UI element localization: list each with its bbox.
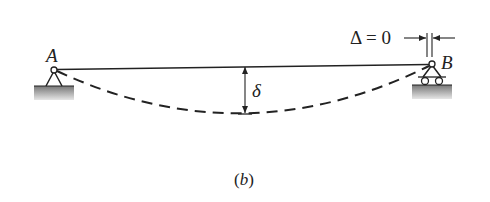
ground-right	[412, 85, 452, 99]
caption-close: )	[248, 170, 254, 189]
roller-wheel-icon	[422, 78, 429, 85]
roller-hinge-icon	[429, 61, 435, 67]
pin-support-a	[34, 67, 74, 100]
beam-diagram: A B δ Δ = 0 (b)	[0, 0, 490, 202]
pin-hinge-icon	[51, 67, 57, 73]
figure-caption: (b)	[234, 170, 254, 189]
label-b: B	[441, 52, 453, 73]
label-delta-zero: Δ = 0	[350, 27, 391, 48]
beam-line	[57, 65, 429, 70]
roller-wheel-icon	[436, 78, 443, 85]
label-delta: δ	[252, 80, 262, 101]
deflected-shape	[57, 66, 429, 113]
deflection-dimension	[238, 67, 252, 114]
caption-letter: b	[240, 170, 249, 189]
label-a: A	[44, 45, 58, 66]
ground-left	[34, 86, 74, 100]
